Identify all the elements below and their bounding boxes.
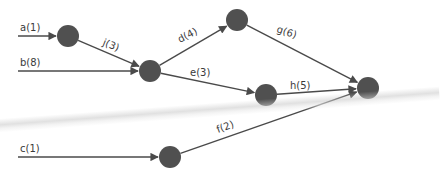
edge-arrow bbox=[247, 25, 358, 82]
event-node bbox=[159, 146, 181, 168]
edge-label: b(8) bbox=[20, 57, 41, 68]
event-node bbox=[139, 60, 161, 82]
edge-label: a(1) bbox=[20, 22, 40, 33]
nodes bbox=[57, 9, 379, 168]
event-node bbox=[57, 25, 79, 47]
edge-label: d(4) bbox=[176, 25, 199, 44]
event-node bbox=[226, 9, 248, 31]
edge-label: f(2) bbox=[215, 118, 235, 134]
edge-label: c(1) bbox=[20, 143, 40, 154]
edge-label: e(3) bbox=[190, 67, 210, 78]
edge-label: g(6) bbox=[275, 23, 298, 40]
edge-label: h(5) bbox=[290, 80, 311, 91]
